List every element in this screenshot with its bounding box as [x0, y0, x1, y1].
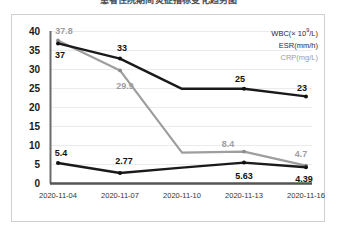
legend-label-wbc-tail: /L)	[309, 29, 318, 38]
data-label-esr-2020-11-16: 23	[297, 84, 307, 93]
data-label-esr-2020-11-07: 33	[117, 44, 127, 53]
y-tick-35: 35	[14, 46, 40, 56]
data-label-crp-2020-11-13: 8.4	[222, 140, 235, 149]
x-tick-2020-11-10: 2020-11-10	[163, 191, 201, 200]
data-label-esr-2020-11-04: 37	[55, 51, 65, 60]
chart-legend: WBC(× 109/L) ESR(mm/h) CRP(mg/L)	[271, 24, 318, 64]
data-label-crp-2020-11-07: 29.9	[116, 82, 134, 91]
y-tick-20: 20	[14, 103, 40, 113]
data-label-wbc-2020-11-16: 4.39	[295, 175, 313, 184]
x-tick-2020-11-13: 2020-11-13	[225, 191, 263, 200]
series-line-crp	[58, 40, 306, 165]
legend-item-crp: CRP(mg/L)	[271, 52, 318, 64]
y-tick-10: 10	[14, 141, 40, 151]
x-tick-2020-11-04: 2020-11-04	[39, 191, 77, 200]
legend-item-wbc: WBC(× 109/L)	[271, 24, 318, 40]
y-tick-30: 30	[14, 65, 40, 75]
y-tick-25: 25	[14, 84, 40, 94]
chart-panel: 40 35 30 25 20 15 10 5 0 2020-11-04 2020…	[11, 14, 325, 222]
data-label-wbc-2020-11-07: 2.77	[115, 157, 133, 166]
y-tick-0: 0	[14, 179, 40, 189]
data-label-wbc-2020-11-04: 5.4	[55, 149, 68, 158]
y-tick-40: 40	[14, 27, 40, 37]
legend-item-esr: ESR(mm/h)	[271, 40, 318, 52]
chart-title: 患者住院期间炎症指标变化趋势图	[0, 0, 337, 7]
legend-label-wbc: WBC(× 10	[271, 29, 306, 38]
data-label-wbc-2020-11-13: 5.63	[235, 172, 253, 181]
y-tick-5: 5	[14, 160, 40, 170]
line-chart: 患者住院期间炎症指标变化趋势图	[0, 0, 337, 231]
data-label-crp-2020-11-16: 4.7	[295, 150, 308, 159]
y-tick-15: 15	[14, 122, 40, 132]
data-label-crp-2020-11-04: 37.8	[55, 27, 73, 36]
x-tick-2020-11-16: 2020-11-16	[287, 191, 325, 200]
data-label-esr-2020-11-13: 25	[235, 75, 245, 84]
x-tick-2020-11-07: 2020-11-07	[101, 191, 139, 200]
